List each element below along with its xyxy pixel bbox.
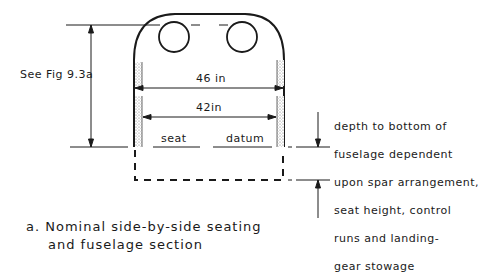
- inner-width-label: 42in: [196, 101, 222, 114]
- head-height-dimension: [89, 25, 94, 147]
- depth-note-line: runs and landing-: [334, 232, 479, 246]
- depth-note-line: depth to bottom of: [334, 120, 479, 134]
- lower-fuselage-dashed: [135, 150, 283, 180]
- datum-label: datum: [226, 132, 264, 145]
- depth-dimension-arrows: [316, 112, 321, 218]
- outer-width-label: 46 in: [196, 72, 226, 85]
- depth-note-line: seat height, control: [334, 204, 479, 218]
- depth-note-line: fuselage dependent: [334, 148, 479, 162]
- reference-label: See Fig 9.3a: [20, 68, 93, 81]
- head-left-icon: [159, 22, 189, 52]
- head-right-icon: [227, 22, 257, 52]
- inner-width-dimension: [143, 115, 276, 120]
- depth-note: depth to bottom of fuselage dependent up…: [334, 106, 479, 276]
- seat-label: seat: [161, 132, 187, 145]
- depth-note-line: upon spar arrangement,: [334, 176, 479, 190]
- depth-note-line: gear stowage: [334, 260, 479, 274]
- caption-line: a. Nominal side-by-side seating: [26, 218, 262, 236]
- caption-line: and fuselage section: [26, 236, 262, 254]
- outer-width-dimension: [135, 86, 283, 91]
- figure-caption: a. Nominal side-by-side seating and fuse…: [26, 218, 262, 254]
